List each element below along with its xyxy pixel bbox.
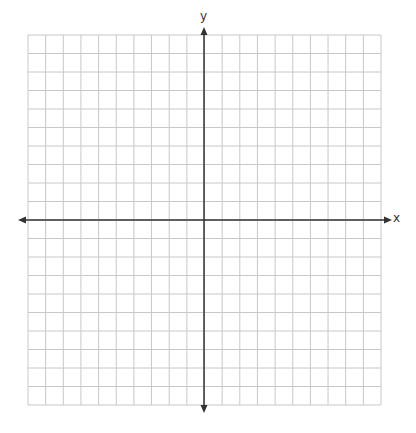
x-axis-left-arrow-icon [18,217,26,224]
y-axis-label: y [200,10,207,22]
y-axis-up-arrow-icon [201,27,208,35]
coordinate-plane [0,0,416,433]
x-axis-right-arrow-icon [384,217,392,224]
x-axis-label: x [393,212,400,224]
y-axis-down-arrow-icon [201,405,208,413]
